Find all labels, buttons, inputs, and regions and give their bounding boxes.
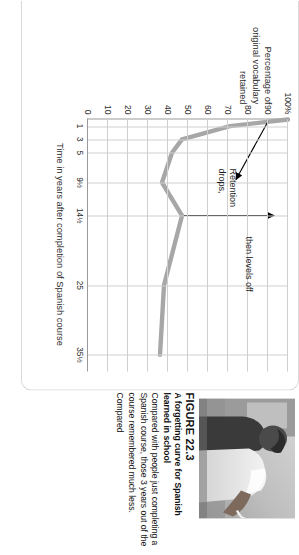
figure-body-line-3: course remembered much less. Compared — [114, 392, 137, 550]
y-axis-tick: 0 — [83, 109, 93, 114]
figure-body-line-1: Compared with people just completing a — [149, 392, 161, 550]
x-axis-tick: 1 — [75, 123, 84, 128]
y-gridline — [107, 119, 108, 371]
figure-photograph — [199, 398, 278, 518]
figure-title-line-1: A forgetting curve for Spanish — [172, 392, 184, 550]
x-gridline — [88, 182, 278, 183]
annotation-line-2: drops, — [216, 168, 227, 228]
y-axis-tick: 70 — [223, 104, 233, 114]
x-axis-tick: 25 — [75, 280, 84, 289]
y-gridline — [147, 119, 148, 371]
x-gridline — [88, 126, 278, 127]
y-axis-label-line-2: original vocabulary — [249, 8, 261, 104]
annotation-retention-drops: Retention drops, — [216, 168, 238, 228]
figure-caption: FIGURE 22.3 A forgetting curve for Spani… — [114, 392, 195, 550]
y-gridline — [207, 119, 208, 371]
x-axis-label: Time in years after completion of Spanis… — [55, 118, 66, 370]
x-axis-tick: 14½ — [75, 208, 84, 223]
x-axis-tick: 9½ — [75, 177, 84, 188]
y-gridline — [267, 119, 268, 371]
figure-body-line-2: Spanish course, those 3 years out of the — [137, 392, 149, 550]
y-axis-label: Percentage of original vocabulary retain… — [237, 8, 274, 104]
y-axis-tick: 40 — [163, 104, 173, 114]
x-gridline — [88, 152, 278, 153]
y-axis-tick: 60 — [203, 104, 213, 114]
figure-number: FIGURE 22.3 — [183, 392, 195, 550]
figure-title-line-2: learned in school — [160, 392, 172, 550]
figure-column: FIGURE 22.3 A forgetting curve for Spani… — [21, 392, 278, 555]
x-axis-tick: 35½ — [75, 347, 84, 362]
y-gridline — [227, 119, 228, 371]
photograph-image — [199, 398, 278, 518]
y-axis-tick: 90 — [263, 104, 273, 114]
x-gridline — [88, 215, 278, 216]
y-gridline — [167, 119, 168, 371]
x-gridline — [88, 354, 278, 355]
y-axis-label-line-1: Percentage of — [262, 8, 274, 104]
retention-drops-arrow — [236, 121, 268, 179]
x-gridline — [88, 139, 278, 140]
annotation-line-1: Retention — [227, 168, 238, 228]
annotation-levels-off: then levels off — [243, 236, 254, 306]
y-gridline — [127, 119, 128, 371]
y-axis-label-line-3: retained — [237, 8, 249, 104]
y-axis-tick: 80 — [243, 104, 253, 114]
y-axis-tick: 30 — [143, 104, 153, 114]
y-axis-tick: 50 — [183, 104, 193, 114]
textbook-page: Percentage of original vocabulary retain… — [21, 0, 278, 555]
x-axis-tick: 5 — [75, 150, 84, 155]
y-axis-tick: 10 — [103, 104, 113, 114]
y-gridline — [187, 119, 188, 371]
x-axis-tick: 3 — [75, 137, 84, 142]
chart-panel: Percentage of original vocabulary retain… — [21, 0, 278, 390]
y-axis-tick: 20 — [123, 104, 133, 114]
